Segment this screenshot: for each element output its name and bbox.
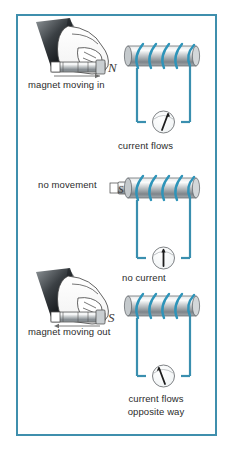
motion-arrow-in-icon: [54, 74, 100, 78]
galvanometer-icon: [153, 365, 175, 387]
caption-line-2: opposite way: [128, 406, 185, 417]
caption-current-flows: current flows: [118, 140, 173, 151]
caption-line-1: current flows: [128, 393, 183, 404]
bar-magnet-icon: [51, 310, 105, 324]
bar-magnet-icon: [51, 60, 105, 74]
induction-figure: N: [0, 0, 233, 452]
galvanometer-icon: [153, 247, 175, 269]
panel-no-movement-graphics: S: [110, 176, 200, 269]
caption-magnet-moving-out: magnet moving out: [28, 326, 111, 337]
caption-current-flows-opposite: current flows opposite way: [113, 393, 199, 418]
diagram-graphics: N: [0, 0, 233, 452]
pole-letter-s-1: S: [118, 183, 124, 195]
pole-letter-n: N: [107, 60, 118, 75]
caption-no-movement: no movement: [38, 179, 97, 190]
pole-letter-s-2: S: [108, 310, 115, 325]
caption-no-current: no current: [122, 272, 166, 283]
galvanometer-icon: [153, 111, 175, 133]
caption-magnet-moving-in: magnet moving in: [28, 79, 105, 90]
panel-magnet-in-graphics: N: [36, 18, 200, 133]
